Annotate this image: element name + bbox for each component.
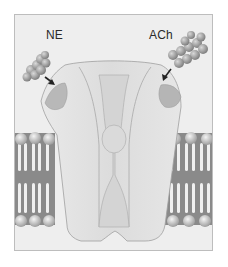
ne-molecule: [23, 51, 51, 82]
ach-molecule: [168, 31, 208, 68]
figure-frame: NE ACh: [14, 14, 213, 251]
ne-label: NE: [46, 28, 63, 42]
ach-label: ACh: [149, 28, 173, 42]
receptor-protein: [41, 61, 181, 241]
receptor-illustration: [15, 15, 213, 251]
membrane-left: [15, 132, 55, 227]
